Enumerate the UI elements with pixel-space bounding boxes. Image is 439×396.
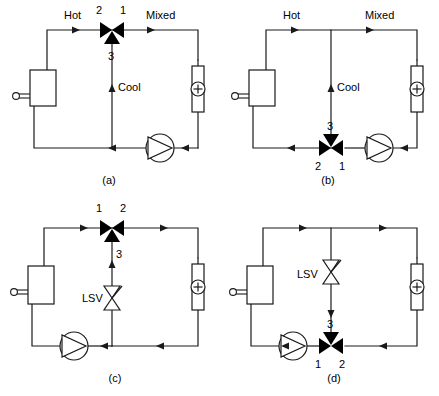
valve-port-1-a: 1 (120, 4, 126, 16)
return-pipe-a (34, 105, 198, 148)
valve-port-3-b: 3 (327, 120, 333, 132)
label-lsv-c: LSV (82, 292, 103, 304)
panel-c: LSV 1 2 3 (c) (0, 198, 219, 396)
label-cool-a: Cool (118, 81, 141, 93)
boiler-d (230, 266, 273, 304)
boiler-c (11, 266, 54, 304)
label-hot-b: Hot (283, 9, 300, 21)
caption-d: (d) (327, 372, 340, 384)
coil-bottom-stub-d (345, 310, 417, 346)
caption-a: (a) (102, 174, 115, 186)
three-way-valve-d (319, 332, 343, 354)
return-pipe-d (251, 303, 279, 346)
return-pipe-b (253, 105, 337, 148)
label-cool-b: Cool (337, 81, 360, 93)
caption-c: (c) (109, 372, 122, 384)
three-way-valve-c (100, 220, 124, 242)
valve-port-3-a: 3 (108, 50, 114, 62)
caption-b: (b) (321, 174, 334, 186)
pump-c (60, 332, 88, 360)
valve-port-1-c: 1 (96, 202, 102, 214)
coil-c (191, 264, 205, 310)
return-pipe-c (32, 303, 60, 346)
panel-a: Hot Mixed Cool 2 1 3 (a) (0, 0, 219, 198)
valve-port-1-b: 1 (339, 160, 345, 172)
coil-a (191, 66, 205, 112)
flow-arrows-d (281, 225, 387, 350)
label-hot-a: Hot (64, 9, 81, 21)
three-way-valve-a (100, 22, 124, 44)
valve-port-3-d: 3 (327, 318, 333, 330)
valve-port-2-c: 2 (120, 202, 126, 214)
valve-port-1-d: 1 (315, 358, 321, 370)
supply-pipe-b (266, 30, 417, 72)
coil-bottom-stub-c (112, 310, 198, 346)
lsv-valve-c (104, 286, 122, 310)
flow-arrows-c (80, 225, 168, 350)
label-lsv-d: LSV (297, 268, 318, 280)
panel-d: LSV 3 1 2 (d) (219, 198, 438, 396)
coil-d (410, 264, 424, 310)
coil-b (410, 66, 424, 112)
valve-port-3-c: 3 (116, 248, 122, 260)
coil-bottom-stub-b (393, 112, 417, 148)
three-way-valve-b (319, 134, 343, 156)
pump-a (146, 134, 174, 162)
label-mixed-b: Mixed (365, 9, 394, 21)
boiler-b (232, 70, 275, 106)
panel-b: Hot Mixed Cool 3 2 1 (b) (219, 0, 438, 198)
label-mixed-a: Mixed (146, 9, 175, 21)
figure-canvas: Hot Mixed Cool 2 1 3 (a) (0, 0, 439, 396)
pump-b (365, 134, 393, 162)
lsv-valve-d (323, 260, 341, 284)
valve-port-2-b: 2 (315, 160, 321, 172)
boiler-a (13, 70, 56, 106)
valve-port-2-d: 2 (339, 358, 345, 370)
valve-port-2-a: 2 (96, 4, 102, 16)
